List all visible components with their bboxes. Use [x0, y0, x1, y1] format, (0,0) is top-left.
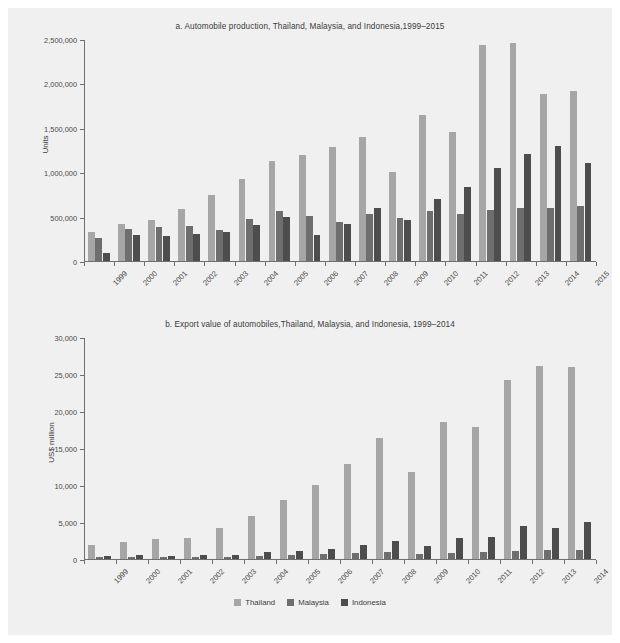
chart-b-x-tick-label-2009: 2009	[432, 567, 450, 585]
bar-malaysia-2012	[512, 551, 519, 560]
bar-indonesia-2012	[520, 526, 527, 559]
bar-malaysia-2011	[480, 552, 487, 559]
bar-indonesia-2002	[193, 234, 200, 261]
chart-b-y-tick-mark	[80, 486, 84, 487]
bar-thailand-2014	[540, 94, 547, 261]
bar-indonesia-2001	[163, 236, 170, 261]
bar-malaysia-2001	[160, 557, 167, 559]
chart-b-x-tick-label-2002: 2002	[208, 567, 226, 585]
bar-thailand-2003	[208, 195, 215, 261]
figure-page: a. Automobile production, Thailand, Mala…	[8, 8, 612, 635]
chart-a-x-tick-mark	[114, 262, 115, 266]
chart-a-x-tick-label-2008: 2008	[382, 269, 400, 287]
chart-a-y-tick-label: 1,000,000	[44, 169, 77, 178]
chart-b-x-tick-mark	[532, 560, 533, 564]
bar-malaysia-2014	[547, 208, 554, 261]
bar-thailand-2007	[344, 464, 351, 559]
bar-indonesia-2007	[360, 545, 367, 559]
bar-thailand-2008	[359, 137, 366, 261]
chart-b-y-axis-label: US$ million	[47, 422, 56, 462]
bar-malaysia-2003	[224, 557, 231, 559]
chart-a-x-tick-label-2015: 2015	[593, 269, 611, 287]
chart-b-x-tick-label-2013: 2013	[560, 567, 578, 585]
chart-a-x-tick-label-2002: 2002	[201, 269, 219, 287]
bar-thailand-2010	[440, 422, 447, 559]
legend-swatch-malaysia	[287, 599, 294, 606]
bar-malaysia-2005	[288, 555, 295, 559]
chart-a-y-tick-mark	[80, 129, 84, 130]
bar-malaysia-2002	[192, 557, 199, 559]
chart-a-title: a. Automobile production, Thailand, Mala…	[8, 22, 612, 31]
chart-b-x-tick-mark	[116, 560, 117, 564]
bar-indonesia-2005	[296, 551, 303, 560]
bar-thailand-2005	[280, 500, 287, 559]
bar-malaysia-2009	[397, 218, 404, 261]
bar-thailand-2012	[479, 45, 486, 261]
chart-a-x-tick-mark	[235, 262, 236, 266]
bar-thailand-2004	[248, 516, 255, 559]
bar-indonesia-2011	[488, 537, 495, 559]
bar-thailand-2009	[389, 172, 396, 261]
bar-malaysia-2004	[256, 556, 263, 559]
chart-panel-b: b. Export value of automobiles,Thailand,…	[8, 320, 612, 620]
bar-malaysia-2007	[336, 222, 343, 261]
legend-swatch-thailand	[234, 599, 241, 606]
bar-thailand-2001	[152, 539, 159, 559]
chart-b-y-tick-mark	[80, 412, 84, 413]
chart-a-x-tick-mark	[566, 262, 567, 266]
legend-item-thailand: Thailand	[234, 598, 275, 607]
bar-indonesia-2013	[552, 528, 559, 559]
bar-thailand-1999	[88, 232, 95, 261]
bar-indonesia-2000	[136, 555, 143, 559]
bar-malaysia-2009	[416, 554, 423, 559]
legend-item-indonesia: Indonesia	[341, 598, 386, 607]
bar-thailand-2011	[472, 427, 479, 559]
chart-a-y-tick-label: 500,000	[50, 213, 77, 222]
chart-a-x-tick-mark	[355, 262, 356, 266]
chart-b-x-tick-mark	[372, 560, 373, 564]
legend-swatch-indonesia	[341, 599, 348, 606]
bar-thailand-2014	[568, 367, 575, 559]
chart-b-x-tick-label-2001: 2001	[176, 567, 194, 585]
bar-thailand-2002	[184, 538, 191, 559]
chart-a-x-tick-label-2004: 2004	[262, 269, 280, 287]
chart-b-x-tick-mark	[148, 560, 149, 564]
bar-malaysia-2014	[576, 550, 583, 559]
chart-a-x-tick-mark	[325, 262, 326, 266]
bar-malaysia-2005	[276, 211, 283, 261]
bar-malaysia-2006	[306, 216, 313, 261]
chart-a-y-axis-label: Units	[41, 135, 50, 153]
chart-a-y-tick-mark	[80, 173, 84, 174]
chart-a-x-tick-mark	[144, 262, 145, 266]
chart-b-x-tick-label-2010: 2010	[464, 567, 482, 585]
chart-b-x-tick-label-2006: 2006	[336, 567, 354, 585]
chart-a-x-tick-label-2003: 2003	[231, 269, 249, 287]
bar-indonesia-2010	[434, 199, 441, 261]
bar-malaysia-2008	[366, 214, 373, 261]
bar-malaysia-1999	[96, 557, 103, 559]
bar-indonesia-2006	[314, 235, 321, 261]
bar-indonesia-2015	[585, 163, 592, 261]
chart-a-x-tick-label-2010: 2010	[442, 269, 460, 287]
chart-b-x-tick-mark	[244, 560, 245, 564]
chart-a-x-tick-mark	[265, 262, 266, 266]
chart-a-x-tick-label-2012: 2012	[503, 269, 521, 287]
bar-thailand-2010	[419, 115, 426, 261]
bar-malaysia-1999	[95, 238, 102, 261]
chart-b-x-tick-label-2005: 2005	[304, 567, 322, 585]
chart-a-plot-area: Units 0500,0001,000,0001,500,0002,000,00…	[84, 40, 596, 262]
chart-b-y-tick-label: 30,000	[54, 334, 77, 343]
bar-indonesia-1999	[104, 556, 111, 559]
chart-b-y-tick-label: 0	[73, 556, 77, 565]
bar-malaysia-2000	[125, 229, 132, 261]
bar-thailand-2000	[118, 224, 125, 261]
chart-a-x-tick-mark	[415, 262, 416, 266]
chart-a-y-tick-label: 1,500,000	[44, 124, 77, 133]
bar-thailand-2003	[216, 528, 223, 559]
chart-b-x-tick-label-1999: 1999	[112, 567, 130, 585]
chart-b-x-tick-mark	[596, 560, 597, 564]
chart-b-x-tick-mark	[436, 560, 437, 564]
chart-a-y-tick-label: 0	[73, 258, 77, 267]
bar-malaysia-2013	[517, 208, 524, 261]
chart-b-x-tick-label-2007: 2007	[368, 567, 386, 585]
